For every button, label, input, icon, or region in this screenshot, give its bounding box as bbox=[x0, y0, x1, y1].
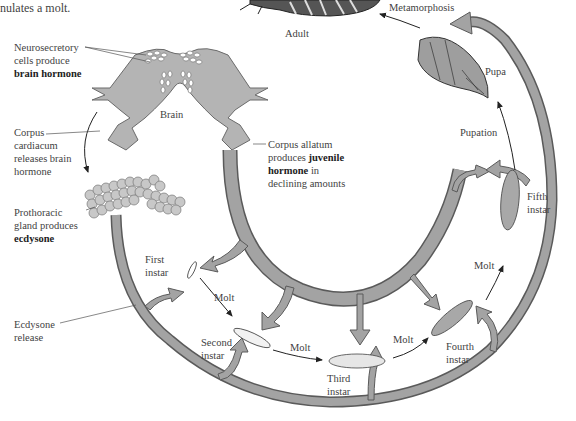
fifth-instar-label: Fifth instar bbox=[527, 190, 550, 216]
label-line: instar bbox=[327, 385, 350, 398]
metamorphosis-label: Metamorphosis bbox=[389, 1, 454, 14]
fifth-instar-larva-icon bbox=[498, 169, 521, 230]
label-line: Third bbox=[327, 372, 350, 385]
label-line: cells produce bbox=[14, 54, 81, 67]
label-line: Fifth bbox=[527, 190, 550, 203]
first-instar-label: First instar bbox=[145, 253, 168, 279]
second-instar-label: Second instar bbox=[201, 336, 232, 362]
brain-label: Brain bbox=[160, 108, 183, 121]
metamorphosis-arrow bbox=[380, 14, 420, 28]
molt-label-1: Molt bbox=[214, 291, 234, 304]
brain-icon bbox=[92, 49, 268, 150]
label-line: Neurosecretory bbox=[14, 41, 81, 54]
label-line: gland produces bbox=[14, 219, 78, 232]
label-text: in bbox=[308, 165, 319, 176]
label-line: releases brain bbox=[14, 152, 71, 165]
label-line: Corpus bbox=[14, 126, 71, 139]
label-bold: hormone bbox=[268, 165, 308, 176]
pupation-arrow bbox=[498, 102, 515, 170]
neurosecretory-label: Neurosecretory cells produce brain hormo… bbox=[14, 41, 81, 80]
caption-fragment: nulates a molt. bbox=[0, 2, 70, 15]
fourth-instar-label: Fourth instar bbox=[446, 340, 474, 366]
molt-label-3: Molt bbox=[393, 333, 413, 346]
third-instar-label: Third instar bbox=[327, 372, 350, 398]
pupa-label: Pupa bbox=[485, 65, 506, 78]
label-line: Corpus allatum bbox=[268, 138, 345, 151]
corpus-cardiacum-label: Corpus cardiacum releases brain hormone bbox=[14, 126, 71, 178]
brain-hormone-arrow bbox=[85, 112, 97, 172]
label-line: cardiacum bbox=[14, 139, 71, 152]
ecdysone-release-leader bbox=[60, 305, 136, 323]
molt-label-2: Molt bbox=[290, 341, 310, 354]
adult-moth-icon bbox=[240, 0, 380, 16]
ecdysone-release-label: Ecdysone release bbox=[14, 318, 55, 344]
adult-label: Adult bbox=[285, 27, 309, 40]
diagram-canvas bbox=[0, 0, 576, 421]
label-line: instar bbox=[527, 203, 550, 216]
label-bold: brain hormone bbox=[14, 68, 81, 79]
molt-label-4: Molt bbox=[474, 259, 494, 272]
label-line: First bbox=[145, 253, 168, 266]
label-text: produces bbox=[268, 152, 309, 163]
label-line: instar bbox=[145, 266, 168, 279]
label-line: Ecdysone bbox=[14, 318, 55, 331]
prothoracic-label: Prothoracic gland produces ecdysone bbox=[14, 206, 78, 245]
label-bold: ecdysone bbox=[14, 233, 54, 244]
label-line: Second bbox=[201, 336, 232, 349]
label-line: Fourth bbox=[446, 340, 474, 353]
label-line: instar bbox=[201, 349, 232, 362]
prothoracic-gland-icon bbox=[85, 175, 185, 218]
first-instar-larva-icon bbox=[186, 261, 198, 279]
pupation-label: Pupation bbox=[460, 126, 497, 139]
third-instar-larva-icon bbox=[329, 354, 385, 368]
label-line: Prothoracic bbox=[14, 206, 78, 219]
label-line: instar bbox=[446, 353, 474, 366]
neurosecretory-leader bbox=[85, 47, 150, 62]
label-line: declining amounts bbox=[268, 177, 345, 190]
label-line: release bbox=[14, 331, 55, 344]
label-bold: juvenile bbox=[309, 152, 345, 163]
pupa-icon bbox=[418, 37, 488, 98]
label-line: hormone bbox=[14, 165, 71, 178]
corpus-allatum-label: Corpus allatum produces juvenile hormone… bbox=[268, 138, 345, 190]
